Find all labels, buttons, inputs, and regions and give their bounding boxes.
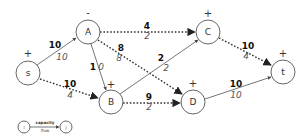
legend-capacity-label: capacity: [36, 120, 55, 125]
edges: 10 10 10 4 4 2 8 8 1 0 2 2 9 2 10 4 10 1…: [37, 21, 271, 112]
edge-B-D-capacity: 9: [146, 92, 152, 102]
node-s-sign: +: [24, 48, 32, 59]
node-A-sign: -: [86, 7, 90, 18]
edge-C-t-flow: 4: [243, 51, 249, 61]
edge-D-t-capacity: 10: [230, 79, 243, 89]
node-s[interactable]: s +: [16, 48, 40, 85]
edge-B-C[interactable]: [120, 40, 198, 94]
edge-s-B-flow: 4: [67, 90, 73, 100]
edge-D-t-flow: 10: [230, 90, 242, 100]
edge-A-B-flow: 0: [98, 62, 104, 72]
edge-C-t-capacity: 10: [242, 41, 255, 51]
node-B-sign: +: [107, 79, 115, 90]
node-D-label: D: [190, 97, 197, 107]
edge-s-B-capacity: 10: [64, 79, 77, 89]
node-A[interactable]: A -: [76, 7, 100, 44]
node-t-sign: +: [279, 48, 287, 59]
legend-flow-label: flow: [41, 128, 50, 133]
node-t[interactable]: t +: [271, 48, 295, 84]
flow-network-diagram: 10 10 10 4 4 2 8 8 1 0 2 2 9 2 10 4 10 1…: [0, 0, 306, 139]
node-C-sign: +: [204, 8, 212, 19]
edge-A-B-capacity: 1: [90, 62, 96, 72]
node-C-label: C: [205, 27, 211, 37]
edge-A-C-flow: 2: [144, 31, 150, 41]
edge-A-D-flow: 8: [116, 53, 122, 63]
node-A-label: A: [85, 27, 92, 37]
node-B-label: B: [108, 97, 114, 107]
legend-node-i-label: i: [23, 125, 24, 130]
edge-B-D-flow: 2: [146, 102, 152, 112]
node-t-label: t: [281, 67, 285, 77]
edge-B-C-flow: 2: [163, 63, 169, 73]
node-D[interactable]: D +: [181, 78, 205, 114]
legend-node-j-label: j: [64, 125, 66, 130]
edge-A-C-capacity: 4: [144, 21, 150, 31]
node-B[interactable]: B +: [99, 79, 123, 114]
edge-s-A-flow: 10: [56, 52, 68, 62]
node-s-label: s: [26, 68, 31, 78]
edge-s-A-capacity: 10: [49, 40, 62, 50]
node-D-sign: +: [189, 78, 197, 89]
edge-A-D-capacity: 8: [118, 43, 124, 53]
edge-B-C-capacity: 2: [158, 53, 164, 63]
legend: i capacity flow j: [18, 120, 72, 133]
node-C[interactable]: C +: [196, 8, 220, 44]
